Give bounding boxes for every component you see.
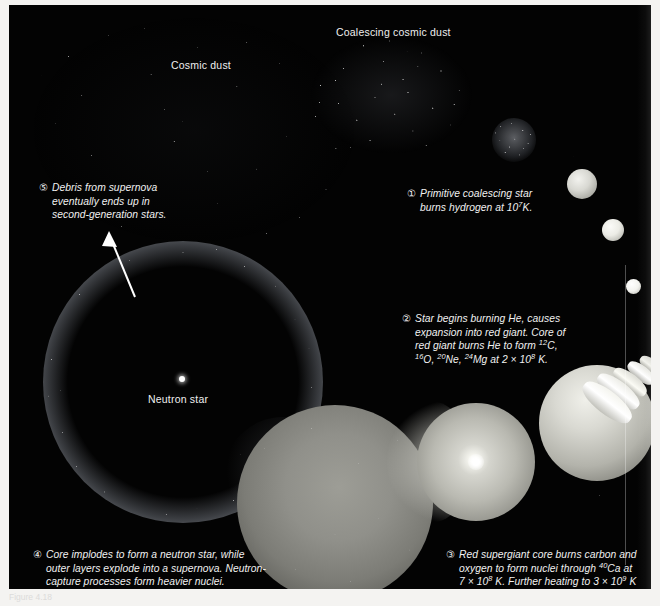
panel-divider-line — [625, 265, 626, 565]
label-neutron-star: Neutron star — [148, 393, 208, 405]
caption-text-2: Star begins burning He, causes expansion… — [402, 312, 612, 366]
sky-panel: Cosmic dust Coalescing cosmic dust Neutr… — [9, 5, 651, 589]
caption-text-4: Core implodes to form a neutron star, wh… — [33, 548, 283, 589]
neutron-star-point — [179, 376, 185, 382]
caption-marker-3: ③ — [446, 548, 455, 562]
caption-step-4: ④ Core implodes to form a neutron star, … — [33, 548, 283, 589]
figure-caption-strip: Figure 4.18 — [9, 592, 409, 604]
panel-edge-glow — [637, 5, 651, 589]
label-coalescing-cosmic-dust: Coalescing cosmic dust — [336, 26, 451, 38]
main-sequence-star-small — [626, 279, 641, 294]
main-sequence-star-medium — [602, 219, 624, 241]
caption-text-3: Red supergiant core burns carbon and oxy… — [446, 548, 651, 589]
caption-step-1: ① Primitive coalescing star burns hydrog… — [407, 187, 607, 214]
figure-root: Cosmic dust Coalescing cosmic dust Neutr… — [0, 0, 660, 606]
caption-step-3: ③ Red supergiant core burns carbon and o… — [446, 548, 651, 589]
caption-step-5: ⑤ Debris from supernova eventually ends … — [39, 181, 219, 222]
caption-marker-1: ① — [407, 187, 416, 201]
coalescing-cosmic-dust-cloud — [309, 35, 474, 155]
caption-marker-2: ② — [402, 312, 411, 326]
red-giant-core — [468, 454, 484, 470]
caption-marker-5: ⑤ — [39, 181, 48, 195]
protostar-granular-orb — [492, 118, 536, 162]
caption-marker-4: ④ — [33, 548, 42, 562]
label-cosmic-dust: Cosmic dust — [171, 59, 231, 71]
caption-step-2: ② Star begins burning He, causes expansi… — [402, 312, 612, 366]
caption-text-1: Primitive coalescing star burns hydrogen… — [407, 187, 607, 214]
caption-text-5: Debris from supernova eventually ends up… — [39, 181, 219, 222]
